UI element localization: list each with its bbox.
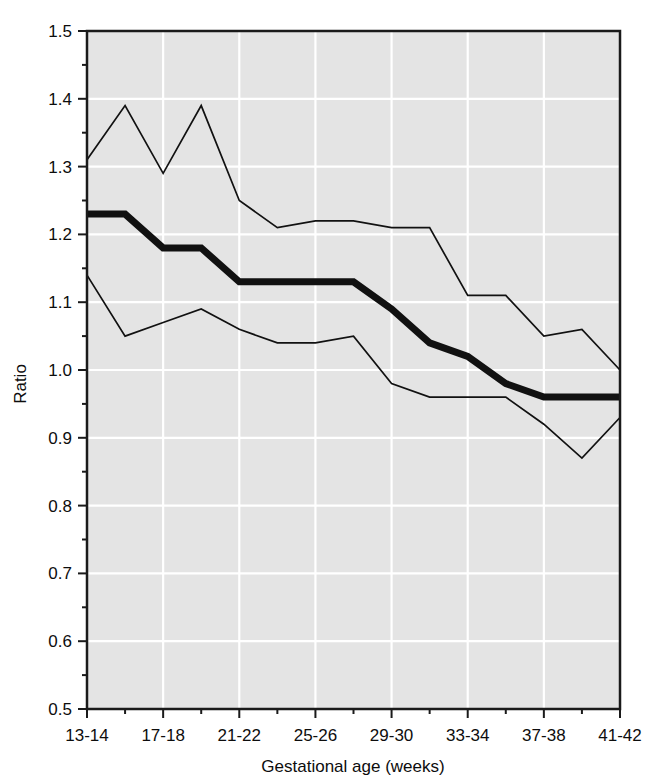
- y-tick-label: 1.0: [48, 361, 72, 380]
- y-tick-label: 0.6: [48, 632, 72, 651]
- x-tick-label: 17-18: [141, 726, 184, 745]
- x-tick-label: 41-42: [598, 726, 641, 745]
- y-tick-label: 0.9: [48, 429, 72, 448]
- y-tick-label: 1.2: [48, 225, 72, 244]
- x-tick-label: 33-34: [446, 726, 489, 745]
- x-axis-title: Gestational age (weeks): [261, 757, 444, 776]
- y-tick-label: 1.4: [48, 90, 72, 109]
- y-tick-label: 1.5: [48, 22, 72, 41]
- x-tick-label: 37-38: [522, 726, 565, 745]
- x-tick-label: 13-14: [65, 726, 108, 745]
- y-tick-label: 0.8: [48, 497, 72, 516]
- y-tick-label: 1.1: [48, 293, 72, 312]
- x-tick-label: 29-30: [370, 726, 413, 745]
- x-tick-label: 21-22: [218, 726, 261, 745]
- y-axis-title: Ratio: [11, 364, 30, 404]
- x-tick-label: 25-26: [294, 726, 337, 745]
- y-tick-label: 1.3: [48, 158, 72, 177]
- y-tick-label: 0.5: [48, 700, 72, 719]
- y-tick-label: 0.7: [48, 564, 72, 583]
- ratio-vs-gestational-age-chart: 0.50.60.70.80.91.01.11.21.31.41.5 13-141…: [0, 0, 645, 781]
